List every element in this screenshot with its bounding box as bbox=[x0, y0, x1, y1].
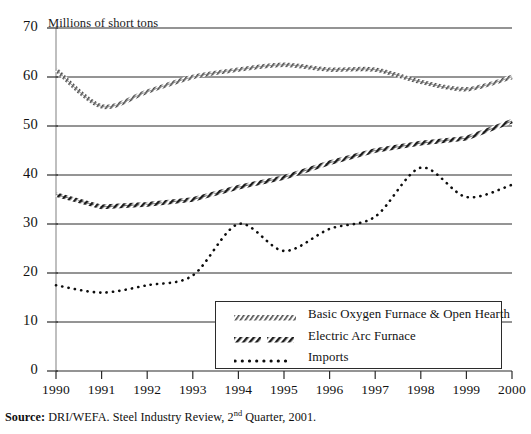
source-text-a: DRI/WEFA. Steel Industry Review, 2 bbox=[45, 410, 234, 424]
legend-swatch-imports bbox=[234, 357, 296, 365]
y-tick-label-40: 40 bbox=[8, 165, 38, 182]
source-note: Source: DRI/WEFA. Steel Industry Review,… bbox=[5, 409, 316, 425]
legend-item-eaf: Electric Arc Furnace bbox=[216, 329, 501, 351]
x-tick-label-1998: 1998 bbox=[398, 382, 444, 398]
x-tick-label-1997: 1997 bbox=[352, 382, 398, 398]
y-tick-label-70: 70 bbox=[8, 18, 38, 35]
chart-figure: Millions of short tons bbox=[0, 0, 531, 434]
x-tick-label-1993: 1993 bbox=[170, 382, 216, 398]
x-tick-label-1992: 1992 bbox=[124, 382, 170, 398]
legend-label-bof: Basic Oxygen Furnace & Open Hearth bbox=[308, 307, 510, 322]
x-tick-label-2000: 2000 bbox=[489, 382, 531, 398]
x-tick-label-1995: 1995 bbox=[261, 382, 307, 398]
y-tick-label-30: 30 bbox=[8, 214, 38, 231]
chart-legend: Basic Oxygen Furnace & Open Hearth Elect… bbox=[215, 301, 502, 369]
legend-label-imports: Imports bbox=[308, 350, 349, 365]
y-tick-label-10: 10 bbox=[8, 312, 38, 329]
y-tick-label-60: 60 bbox=[8, 67, 38, 84]
y-tick-label-50: 50 bbox=[8, 116, 38, 133]
source-ordinal: nd bbox=[234, 409, 242, 418]
y-tick-label-20: 20 bbox=[8, 263, 38, 280]
x-tick-label-1991: 1991 bbox=[79, 382, 125, 398]
x-tick-label-1996: 1996 bbox=[307, 382, 353, 398]
source-text-b: Quarter, 2001. bbox=[242, 410, 316, 424]
x-tick-label-1999: 1999 bbox=[443, 382, 489, 398]
legend-item-imports: Imports bbox=[216, 350, 501, 372]
x-tick-label-1994: 1994 bbox=[215, 382, 261, 398]
y-tick-label-0: 0 bbox=[8, 361, 38, 378]
x-tick-label-1990: 1990 bbox=[33, 382, 79, 398]
legend-label-eaf: Electric Arc Furnace bbox=[308, 329, 416, 344]
legend-item-bof: Basic Oxygen Furnace & Open Hearth bbox=[216, 307, 501, 329]
source-label: Source: bbox=[5, 410, 45, 424]
legend-swatch-bof bbox=[234, 314, 296, 322]
legend-swatch-eaf bbox=[234, 336, 296, 344]
